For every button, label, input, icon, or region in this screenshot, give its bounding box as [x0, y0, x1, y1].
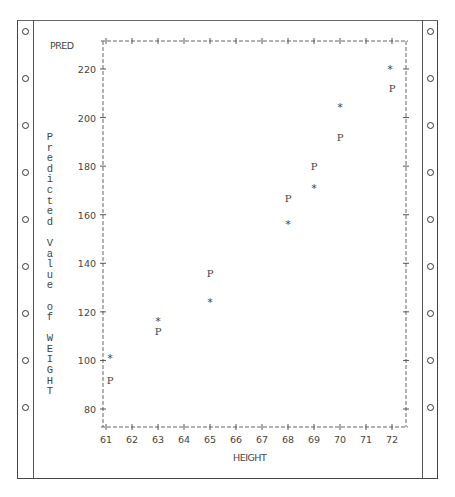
predicted-point: P [389, 83, 396, 94]
x-tick-label: 63 [152, 434, 164, 445]
x-axis-title: HEIGHT [233, 452, 266, 463]
observed-point: * [337, 101, 344, 114]
x-tick-label: 61 [100, 434, 112, 445]
y-tick-label: 180 [62, 161, 96, 172]
y-axis-title: P r e d i c t e d V a l u e o f W E I G … [44, 132, 56, 397]
observed-point: * [387, 62, 394, 75]
x-tick-label: 71 [360, 434, 372, 445]
x-tick-label: 65 [204, 434, 216, 445]
y-tick-label: 100 [62, 355, 96, 366]
observed-point: * [311, 181, 318, 194]
y-tick-label: 220 [62, 64, 96, 75]
y-tick-label: 80 [62, 404, 96, 415]
y-tick-label: 160 [62, 209, 96, 220]
predicted-point: P [311, 161, 318, 172]
observed-point: * [207, 295, 214, 308]
x-tick-label: 67 [256, 434, 268, 445]
x-tick-label: 62 [126, 434, 138, 445]
x-tick-label: 66 [230, 434, 242, 445]
x-tick-label: 70 [334, 434, 346, 445]
observed-point: * [285, 218, 292, 231]
predicted-point: P [155, 326, 162, 337]
predicted-point: P [207, 268, 214, 279]
predicted-point: P [337, 132, 344, 143]
x-tick-label: 69 [308, 434, 320, 445]
x-tick-label: 68 [282, 434, 294, 445]
predicted-point: P [285, 192, 292, 203]
x-tick-label: 72 [386, 434, 398, 445]
y-tick-label: 120 [62, 306, 96, 317]
predicted-point: P [107, 374, 114, 385]
x-tick-label: 64 [178, 434, 190, 445]
y-tick-label: 200 [62, 112, 96, 123]
observed-point: * [107, 351, 114, 364]
pred-label: PRED [50, 40, 74, 51]
y-tick-label: 140 [62, 258, 96, 269]
